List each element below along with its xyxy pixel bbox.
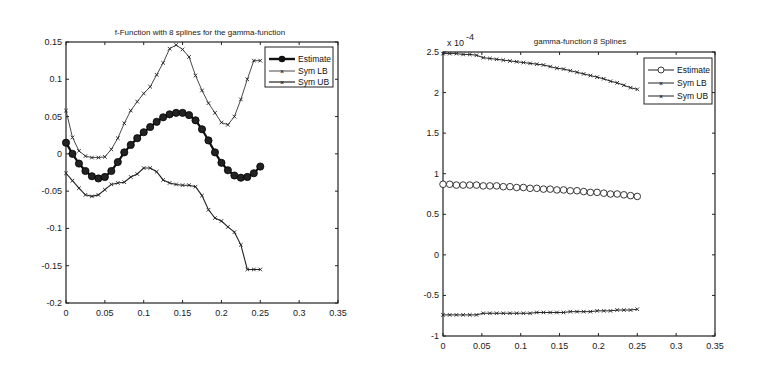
data-point xyxy=(161,61,165,65)
data-point xyxy=(207,101,211,105)
data-point xyxy=(108,167,115,174)
data-point xyxy=(513,184,520,191)
left-legend: Estimate × Sym LB × Sym UB xyxy=(265,47,333,87)
data-point xyxy=(122,121,126,125)
data-point xyxy=(507,183,514,190)
y-tick-label: -0.5 xyxy=(423,290,439,300)
data-point xyxy=(500,183,507,190)
y-tick-label: 0.05 xyxy=(44,112,62,122)
y-tick-label: -0.1 xyxy=(46,223,62,233)
data-point xyxy=(224,167,231,174)
data-point xyxy=(174,43,178,47)
data-point xyxy=(185,111,192,118)
data-point xyxy=(71,179,75,183)
data-point xyxy=(560,187,567,194)
data-point xyxy=(129,109,133,113)
data-point xyxy=(134,135,141,142)
data-point xyxy=(440,181,447,188)
x-marker-icon: × xyxy=(659,93,663,100)
data-point xyxy=(127,141,134,148)
data-point xyxy=(192,117,199,124)
data-point xyxy=(527,185,534,192)
data-point xyxy=(77,149,81,153)
data-point xyxy=(547,186,554,193)
y-multiplier-label: x 10 xyxy=(447,38,464,48)
data-point xyxy=(211,149,218,156)
data-point xyxy=(600,190,607,197)
data-point xyxy=(250,170,257,177)
data-point xyxy=(237,174,244,181)
data-point xyxy=(594,189,601,196)
x-tick-label: 0.35 xyxy=(329,308,347,318)
series-line-sym-ub xyxy=(66,168,260,269)
data-point xyxy=(213,111,217,115)
series-line-sym-lb xyxy=(66,45,260,158)
right-legend: Estimate × Sym LB × Sym UB xyxy=(644,58,712,104)
x-tick-label: 0.3 xyxy=(293,308,306,318)
y-tick-label: 0.1 xyxy=(49,74,62,84)
series-line-sym-lb xyxy=(443,54,637,90)
data-point xyxy=(446,181,453,188)
y-tick-label: 0 xyxy=(434,250,439,260)
x-tick-label: 0.2 xyxy=(592,341,605,351)
open-circle-marker-icon xyxy=(658,67,664,73)
x-tick-label: 0.2 xyxy=(215,308,228,318)
y-tick-label: 2.5 xyxy=(426,47,439,57)
data-point xyxy=(153,118,160,125)
estimate-marker-icon xyxy=(279,56,286,63)
x-tick-label: 0.15 xyxy=(551,341,569,351)
legend-sym-ub: Sym UB xyxy=(298,77,330,87)
left-chart-title: f-Function with 8 splines for the gamma-… xyxy=(115,28,285,37)
legend-sym-ub: Sym UB xyxy=(677,91,709,101)
y-tick-label: 0.5 xyxy=(426,209,439,219)
data-point xyxy=(140,129,147,136)
data-point xyxy=(614,191,621,198)
data-point xyxy=(147,123,154,130)
data-point xyxy=(533,185,540,192)
data-point xyxy=(101,173,108,180)
series-line-sym-ub xyxy=(443,309,637,315)
left-chart-f-function: f-Function with 8 splines for the gamma-… xyxy=(41,28,346,318)
data-point xyxy=(634,193,641,200)
x-marker-icon: × xyxy=(280,68,284,75)
data-point xyxy=(62,139,69,146)
legend-estimate: Estimate xyxy=(677,65,710,75)
data-point xyxy=(257,163,264,170)
data-point xyxy=(205,137,212,144)
y-tick-label: 1 xyxy=(434,169,439,179)
data-point xyxy=(580,188,587,195)
x-tick-label: 0.05 xyxy=(473,341,491,351)
data-point xyxy=(95,175,102,182)
data-point xyxy=(200,89,204,93)
data-point xyxy=(540,186,547,193)
data-point xyxy=(110,148,114,152)
x-tick-label: 0.25 xyxy=(252,308,270,318)
y-tick-label: 1.5 xyxy=(426,128,439,138)
data-point xyxy=(135,100,139,104)
data-point xyxy=(75,160,82,167)
data-point xyxy=(82,167,89,174)
data-point xyxy=(480,183,487,190)
x-tick-label: 0.15 xyxy=(174,308,192,318)
x-tick-label: 0.3 xyxy=(670,341,683,351)
right-chart-title: gamma-function 8 Splines xyxy=(534,37,627,46)
data-point xyxy=(116,136,120,140)
data-point xyxy=(487,183,494,190)
data-point xyxy=(233,230,237,234)
y-tick-label: -0.15 xyxy=(41,261,62,271)
data-point xyxy=(466,182,473,189)
data-point xyxy=(453,182,460,189)
legend-estimate: Estimate xyxy=(298,54,331,64)
data-point xyxy=(218,159,225,166)
right-chart-gamma-function: gamma-function 8 Splines x 10 -4 00.050.… xyxy=(423,32,723,351)
data-point xyxy=(621,192,628,199)
legend-sym-lb: Sym LB xyxy=(298,66,328,76)
data-point xyxy=(567,187,574,194)
x-tick-label: 0.1 xyxy=(514,341,527,351)
data-point xyxy=(142,92,146,96)
x-tick-label: 0.35 xyxy=(706,341,724,351)
y-tick-label: 2 xyxy=(434,88,439,98)
data-point xyxy=(166,111,173,118)
x-tick-label: 0.1 xyxy=(137,308,150,318)
legend-sym-lb: Sym LB xyxy=(677,78,707,88)
